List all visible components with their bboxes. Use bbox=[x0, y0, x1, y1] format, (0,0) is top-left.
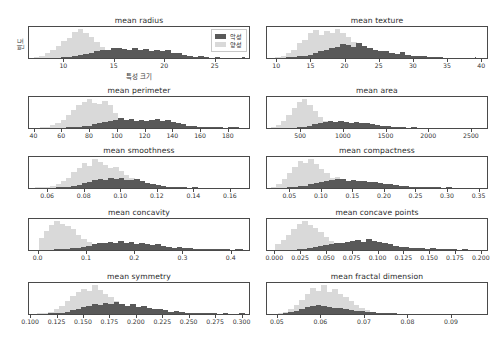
x-axis-tick-label: 0.250 bbox=[180, 318, 198, 325]
histogram-bar bbox=[239, 313, 245, 314]
panel-mean-compactness: mean compactness 0.050.100.150.200.250.3… bbox=[266, 146, 488, 194]
panel-title: mean radius bbox=[28, 16, 250, 25]
legend-entry-benign: 양성 bbox=[215, 41, 242, 48]
x-axis-tick-label: 25 bbox=[375, 62, 383, 69]
x-axis: 0.050.060.070.080.09 bbox=[266, 315, 488, 329]
plot-axes bbox=[28, 156, 250, 189]
panel-mean-symmetry: mean symmetry 0.1000.1250.1500.1750.2000… bbox=[28, 272, 250, 320]
panel-title: mean fractal dimension bbox=[266, 272, 488, 281]
plot-area bbox=[267, 157, 487, 188]
panel-title: mean smoothness bbox=[28, 146, 250, 155]
plot-area bbox=[267, 219, 487, 250]
panel-title: mean perimeter bbox=[28, 86, 250, 95]
x-axis-tick-label: 0.14 bbox=[186, 192, 200, 199]
x-axis-tick-label: 0.0 bbox=[33, 254, 43, 261]
panel-mean-texture: mean texture 10152025303540 bbox=[266, 16, 488, 64]
panel-title: mean concavity bbox=[28, 208, 250, 217]
x-axis-tick-label: 0.200 bbox=[127, 318, 145, 325]
plot-axes bbox=[266, 26, 488, 59]
x-axis-tick-label: 15 bbox=[306, 62, 314, 69]
histogram-bar bbox=[446, 187, 452, 188]
x-axis-tick-label: 120 bbox=[139, 132, 151, 139]
x-axis-tick-label: 140 bbox=[166, 132, 178, 139]
plot-area bbox=[267, 283, 487, 314]
x-axis-tick-label: 0.3 bbox=[178, 254, 188, 261]
legend: 악성 양성 bbox=[211, 29, 247, 52]
plot-axes: 악성 양성 bbox=[28, 26, 250, 59]
x-axis-tick-label: 20 bbox=[160, 62, 168, 69]
x-axis-tick-label: 15 bbox=[110, 62, 118, 69]
panel-title: mean area bbox=[266, 86, 488, 95]
x-axis-tick-label: 0.175 bbox=[101, 318, 119, 325]
histogram-bar bbox=[223, 313, 229, 314]
plot-axes bbox=[266, 218, 488, 251]
histogram-bar bbox=[215, 57, 221, 58]
x-axis: 0.0000.0250.0500.0750.1000.1250.1500.175… bbox=[266, 251, 488, 265]
histogram-bar bbox=[182, 187, 188, 188]
x-axis-tick-label: 100 bbox=[111, 132, 123, 139]
panel-mean-fractal-dimension: mean fractal dimension 0.050.060.070.080… bbox=[266, 272, 488, 320]
plot-area bbox=[267, 27, 487, 58]
legend-label-malignant: 악성 bbox=[230, 33, 242, 40]
x-axis-tick-label: 80 bbox=[85, 132, 93, 139]
panel-title: mean symmetry bbox=[28, 272, 250, 281]
x-axis-tick-label: 1500 bbox=[378, 132, 394, 139]
panel-title: mean compactness bbox=[266, 146, 488, 155]
x-axis-tick-label: 0.16 bbox=[223, 192, 237, 199]
x-axis-tick-label: 40 bbox=[477, 62, 485, 69]
legend-swatch-benign bbox=[215, 42, 226, 47]
plot-axes bbox=[266, 96, 488, 129]
x-axis: 0.060.080.100.120.140.16 bbox=[28, 189, 250, 203]
plot-axes bbox=[266, 156, 488, 189]
plot-area bbox=[29, 157, 249, 188]
x-axis-tick-label: 0.4 bbox=[226, 254, 236, 261]
plot-axes bbox=[28, 282, 250, 315]
y-axis-label: 빈도 bbox=[16, 38, 25, 50]
x-axis-tick-label: 0.12 bbox=[150, 192, 164, 199]
x-axis-tick-label: 20 bbox=[341, 62, 349, 69]
panel-mean-concave-points: mean concave points 0.0000.0250.0500.075… bbox=[266, 208, 488, 256]
x-axis-label: 특성 크기 bbox=[28, 72, 250, 81]
histogram-bar bbox=[192, 187, 198, 188]
x-axis-tick-label: 1000 bbox=[335, 132, 351, 139]
panel-mean-perimeter: mean perimeter 406080100120140160180 bbox=[28, 86, 250, 134]
panel-mean-radius: mean radius 악성 양성 10152025 특성 크기 빈도 bbox=[28, 16, 250, 78]
x-axis-tick-label: 0.30 bbox=[440, 192, 454, 199]
plot-area bbox=[29, 283, 249, 314]
plot-area bbox=[29, 97, 249, 128]
x-axis-tick-label: 60 bbox=[57, 132, 65, 139]
x-axis: 5001000150020002500 bbox=[266, 129, 488, 143]
x-axis-tick-label: 30 bbox=[409, 62, 417, 69]
x-axis: 406080100120140160180 bbox=[28, 129, 250, 143]
x-axis-tick-label: 0.100 bbox=[369, 254, 387, 261]
x-axis-tick-label: 2000 bbox=[420, 132, 436, 139]
legend-label-benign: 양성 bbox=[230, 41, 242, 48]
x-axis-tick-label: 0.35 bbox=[472, 192, 486, 199]
x-axis-tick-label: 0.150 bbox=[420, 254, 438, 261]
x-axis-tick-label: 0.225 bbox=[153, 318, 171, 325]
histogram-bar bbox=[462, 249, 468, 250]
x-axis-tick-label: 2500 bbox=[463, 132, 479, 139]
plot-area bbox=[267, 97, 487, 128]
x-axis-tick-label: 10 bbox=[59, 62, 67, 69]
x-axis-tick-label: 0.05 bbox=[282, 192, 296, 199]
x-axis-tick-label: 0.125 bbox=[48, 318, 66, 325]
x-axis-tick-label: 0.10 bbox=[113, 192, 127, 199]
histogram-bar bbox=[233, 127, 239, 128]
x-axis-tick-label: 0.200 bbox=[472, 254, 490, 261]
histogram-grid-figure: mean radius 악성 양성 10152025 특성 크기 빈도 mean… bbox=[0, 0, 497, 346]
x-axis-tick-label: 0.08 bbox=[401, 318, 415, 325]
x-axis: 10152025 bbox=[28, 59, 250, 73]
x-axis-tick-label: 0.06 bbox=[314, 318, 328, 325]
x-axis: 0.00.10.20.30.4 bbox=[28, 251, 250, 265]
x-axis-tick-label: 0.125 bbox=[394, 254, 412, 261]
x-axis-tick-label: 0.08 bbox=[77, 192, 91, 199]
legend-entry-malignant: 악성 bbox=[215, 33, 242, 40]
x-axis-tick-label: 0.1 bbox=[81, 254, 91, 261]
x-axis-tick-label: 180 bbox=[222, 132, 234, 139]
x-axis-tick-label: 40 bbox=[30, 132, 38, 139]
histogram-bar bbox=[436, 187, 442, 188]
x-axis-tick-label: 0.275 bbox=[206, 318, 224, 325]
x-axis-tick-label: 500 bbox=[294, 132, 306, 139]
plot-axes bbox=[28, 218, 250, 251]
